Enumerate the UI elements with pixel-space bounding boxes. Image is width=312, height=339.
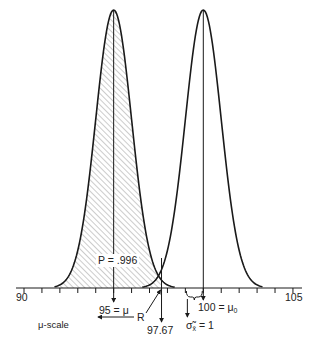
mu-95-value: 95 = bbox=[99, 304, 123, 316]
mu-symbol: μ bbox=[123, 304, 129, 316]
tick-label-90: 90 bbox=[16, 292, 28, 303]
standard-error-label: σ̃x̄ = 1 bbox=[186, 320, 214, 332]
mu0-value: 100 = bbox=[198, 301, 228, 313]
p-symbol: P bbox=[98, 254, 105, 266]
tick-label-105: 105 bbox=[285, 292, 303, 303]
axis-scale-label: μ-scale bbox=[38, 320, 69, 330]
axis-ticks bbox=[24, 288, 293, 293]
critical-value-label: 97.67 bbox=[147, 325, 173, 336]
shaded-power-region bbox=[54, 10, 161, 288]
probability-label: P = .996 bbox=[96, 254, 139, 267]
mu0-subscript: 0 bbox=[234, 307, 238, 314]
mu0-100-label: 100 = μ0 bbox=[198, 302, 237, 314]
sigma-value: = 1 bbox=[196, 319, 214, 331]
null-distribution-curve bbox=[142, 10, 262, 287]
standard-error-brace bbox=[186, 291, 202, 300]
rejection-region-pointer-arrow bbox=[146, 290, 161, 313]
p-value: = .996 bbox=[105, 254, 137, 266]
region-r-label: R bbox=[137, 312, 145, 323]
scale-name: μ-scale bbox=[38, 319, 69, 330]
sampling-distribution-diagram bbox=[0, 0, 312, 339]
mu-95-label: 95 = μ bbox=[99, 305, 129, 316]
